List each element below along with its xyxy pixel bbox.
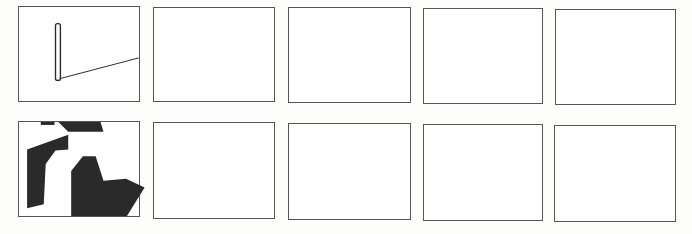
panel-label: Panel 7 bbox=[154, 123, 155, 124]
panel-1: Panel 1 bbox=[18, 6, 140, 102]
bar-and-line-drawing bbox=[19, 7, 139, 101]
left-shape bbox=[27, 135, 68, 208]
dark-shapes-drawing bbox=[19, 122, 139, 216]
panel-3: Panel 3 bbox=[288, 7, 411, 103]
vertical-bar bbox=[56, 24, 61, 81]
panel-label: Panel 3 bbox=[289, 8, 290, 9]
panel-label: Panel 2 bbox=[154, 8, 155, 9]
bottom-shape bbox=[71, 156, 144, 216]
panel-label: Panel 8 bbox=[289, 124, 290, 125]
panel-label: Panel 10 bbox=[555, 126, 556, 127]
panel-9: Panel 9 bbox=[423, 124, 543, 221]
panel-2: Panel 2 bbox=[153, 7, 275, 102]
panel-10: Panel 10 bbox=[554, 125, 676, 222]
panel-7: Panel 7 bbox=[153, 122, 275, 219]
panel-8: Panel 8 bbox=[288, 123, 411, 220]
top-shape bbox=[58, 122, 103, 132]
panel-label: Panel 9 bbox=[424, 125, 425, 126]
panel-label: Panel 5 bbox=[556, 10, 557, 11]
panel-4: Panel 4 bbox=[423, 8, 543, 104]
top-shape-small bbox=[41, 122, 55, 125]
diagonal-line bbox=[60, 58, 138, 79]
panel-label: Panel 4 bbox=[424, 9, 425, 10]
panel-5: Panel 5 bbox=[555, 9, 676, 105]
panel-6: Panel 6 bbox=[18, 121, 140, 217]
